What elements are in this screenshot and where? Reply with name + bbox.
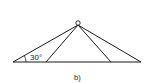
- inner-left-member: [46, 25, 78, 62]
- figure-caption: b): [74, 73, 81, 82]
- outer-right-member: [78, 25, 141, 62]
- inner-right-member: [78, 25, 111, 62]
- pivot-circle-icon: [76, 21, 80, 25]
- angle-label: 30°: [30, 53, 42, 62]
- outer-left-member: [13, 25, 78, 62]
- angle-arc-icon: [24, 56, 26, 62]
- truss-diagram: 30° b): [0, 0, 150, 83]
